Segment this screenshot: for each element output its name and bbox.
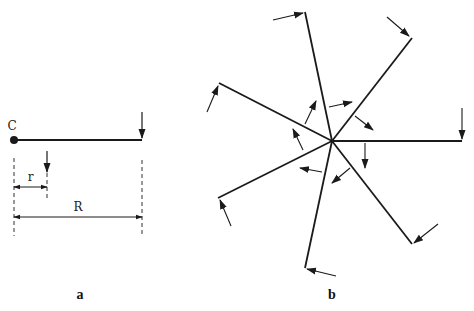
- star-ray-1: [332, 38, 412, 141]
- panel-b-label: b: [328, 287, 336, 302]
- outer-force-arrow-icon: [307, 269, 336, 276]
- inner-force-arrow-icon: [332, 168, 350, 183]
- panel-b-star: [207, 12, 462, 276]
- figure-canvas: CrR a b: [0, 0, 474, 311]
- r-label: r: [28, 170, 34, 184]
- outer-force-arrow-icon: [207, 86, 218, 112]
- point-c-label: C: [7, 119, 16, 133]
- star-ray-2: [219, 83, 332, 141]
- inner-force-arrow-icon: [329, 102, 352, 107]
- star-ray-0: [305, 12, 332, 141]
- panel-a-label: a: [77, 287, 84, 302]
- inner-force-arrow-icon: [355, 116, 373, 130]
- outer-force-arrow-icon: [220, 200, 231, 226]
- R-label: R: [73, 200, 83, 214]
- star-center-point: [330, 139, 334, 143]
- outer-force-arrow-icon: [414, 224, 438, 243]
- inner-force-arrow-icon: [293, 129, 303, 150]
- outer-force-arrow-icon: [273, 13, 303, 20]
- star-ray-6: [305, 141, 332, 268]
- inner-force-arrow-icon: [305, 101, 316, 124]
- star-ray-4: [218, 141, 332, 198]
- outer-force-arrow-icon: [387, 17, 409, 36]
- star-ray-5: [332, 141, 412, 244]
- pivot-point-c: [10, 136, 18, 144]
- inner-force-arrow-icon: [300, 168, 322, 172]
- panel-a-cantilever: CrR: [7, 112, 142, 236]
